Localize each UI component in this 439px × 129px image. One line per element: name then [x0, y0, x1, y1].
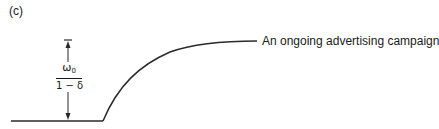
omega-subscript: 0 — [71, 67, 75, 75]
dimension-fraction: ω0 1 − δ — [56, 62, 82, 92]
response-curve — [103, 41, 257, 121]
arrow-down-icon — [66, 113, 71, 120]
curve-label: An ongoing advertising campaign — [262, 34, 439, 48]
fraction-numerator: ω0 — [56, 62, 82, 79]
arrow-up-icon — [66, 41, 71, 48]
fraction-denominator: 1 − δ — [56, 79, 82, 92]
omega-symbol: ω — [62, 61, 71, 74]
